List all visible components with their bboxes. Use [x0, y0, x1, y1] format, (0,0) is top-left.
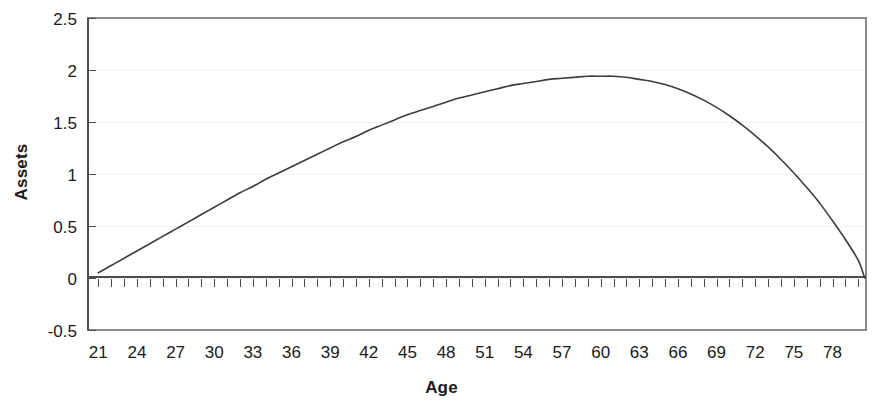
svg-text:60: 60: [591, 343, 610, 362]
svg-text:0: 0: [68, 270, 77, 289]
svg-text:54: 54: [514, 343, 533, 362]
svg-text:42: 42: [359, 343, 378, 362]
svg-text:-0.5: -0.5: [48, 322, 77, 341]
svg-text:39: 39: [321, 343, 340, 362]
svg-text:1: 1: [68, 166, 77, 185]
y-axis-title-wrapper: Assets: [0, 110, 44, 240]
svg-text:33: 33: [243, 343, 262, 362]
svg-text:27: 27: [166, 343, 185, 362]
svg-text:78: 78: [823, 343, 842, 362]
x-axis-title: Age: [0, 378, 883, 398]
svg-text:21: 21: [89, 343, 108, 362]
svg-text:45: 45: [398, 343, 417, 362]
svg-text:66: 66: [668, 343, 687, 362]
svg-text:0.5: 0.5: [53, 218, 77, 237]
svg-text:36: 36: [282, 343, 301, 362]
svg-text:48: 48: [437, 343, 456, 362]
assets-vs-age-line-chart: 2.521.510.50-0.5 21242730333639424548515…: [0, 0, 883, 415]
svg-text:1.5: 1.5: [53, 114, 77, 133]
svg-text:63: 63: [630, 343, 649, 362]
svg-text:24: 24: [127, 343, 146, 362]
svg-text:75: 75: [784, 343, 803, 362]
y-axis-title: Assets: [12, 129, 32, 215]
svg-text:30: 30: [205, 343, 224, 362]
chart-figure: 2.521.510.50-0.5 21242730333639424548515…: [0, 0, 883, 415]
svg-text:72: 72: [746, 343, 765, 362]
svg-text:69: 69: [707, 343, 726, 362]
svg-text:57: 57: [553, 343, 572, 362]
svg-text:2: 2: [68, 62, 77, 81]
svg-text:51: 51: [475, 343, 494, 362]
svg-text:2.5: 2.5: [53, 10, 77, 29]
